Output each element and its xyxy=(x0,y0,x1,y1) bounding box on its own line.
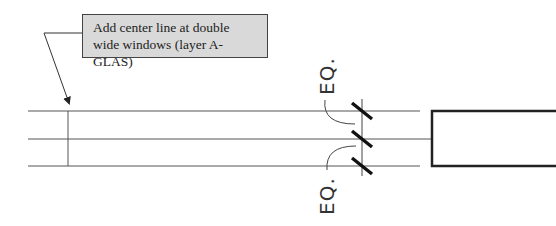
eq-label-upper: EQ. xyxy=(315,57,339,95)
eq-arc-upper xyxy=(325,100,355,124)
callout-note: Add center line at double wide windows (… xyxy=(82,14,268,58)
leader-line xyxy=(44,33,82,103)
eq-label-lower: EQ. xyxy=(315,177,339,215)
wall-segment xyxy=(432,111,556,166)
